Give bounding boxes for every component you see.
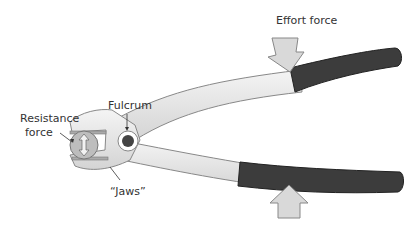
upper-handle-grip	[290, 48, 402, 92]
resistance-force-label-line1: Resistance	[20, 112, 79, 125]
lower-handle-grip	[238, 162, 404, 193]
fulcrum-dot	[122, 135, 134, 147]
jaws-label: “Jaws”	[110, 185, 146, 198]
resistance-force-label-line2: force	[25, 126, 53, 139]
pliers-diagram: Effort force Fulcrum Resistance force “J…	[0, 0, 419, 233]
effort-force-label: Effort force	[276, 14, 337, 27]
fulcrum-label: Fulcrum	[108, 99, 152, 112]
